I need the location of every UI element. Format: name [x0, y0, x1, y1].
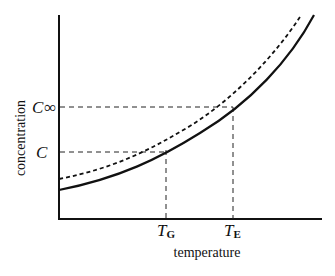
c-inf-label: C∞: [32, 98, 56, 117]
y-axis-title: concentration: [13, 100, 28, 176]
dashed-curve: [59, 17, 300, 179]
concentration-temperature-diagram: C∞ C TG TE temperature concentration: [0, 0, 335, 276]
tg-label: TG: [157, 221, 175, 240]
x-axis-title: temperature: [174, 245, 241, 260]
te-label: TE: [224, 221, 241, 240]
solid-curve: [59, 15, 314, 190]
c-label: C: [36, 143, 48, 162]
